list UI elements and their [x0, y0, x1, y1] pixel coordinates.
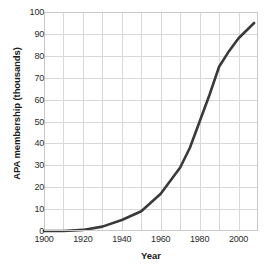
x-axis-tick-label: 1980 [190, 234, 209, 244]
x-axis-tick-labels: 190019201940196019802000 [44, 234, 258, 248]
chart-container: 0102030405060708090100 19001920194019601… [0, 0, 272, 272]
x-axis-tick-label: 2000 [229, 234, 248, 244]
plot-area [44, 12, 258, 231]
y-axis-title: APA membership (thousands) [11, 4, 22, 224]
data-series-line [44, 12, 258, 231]
x-axis-tick-label: 1960 [151, 234, 170, 244]
x-axis-tick-label: 1920 [73, 234, 92, 244]
x-axis-tick-label: 1940 [112, 234, 131, 244]
x-axis-title: Year [44, 250, 258, 261]
y-axis-tick-label: 0 [14, 226, 44, 236]
x-axis-tick-label: 1900 [34, 234, 53, 244]
